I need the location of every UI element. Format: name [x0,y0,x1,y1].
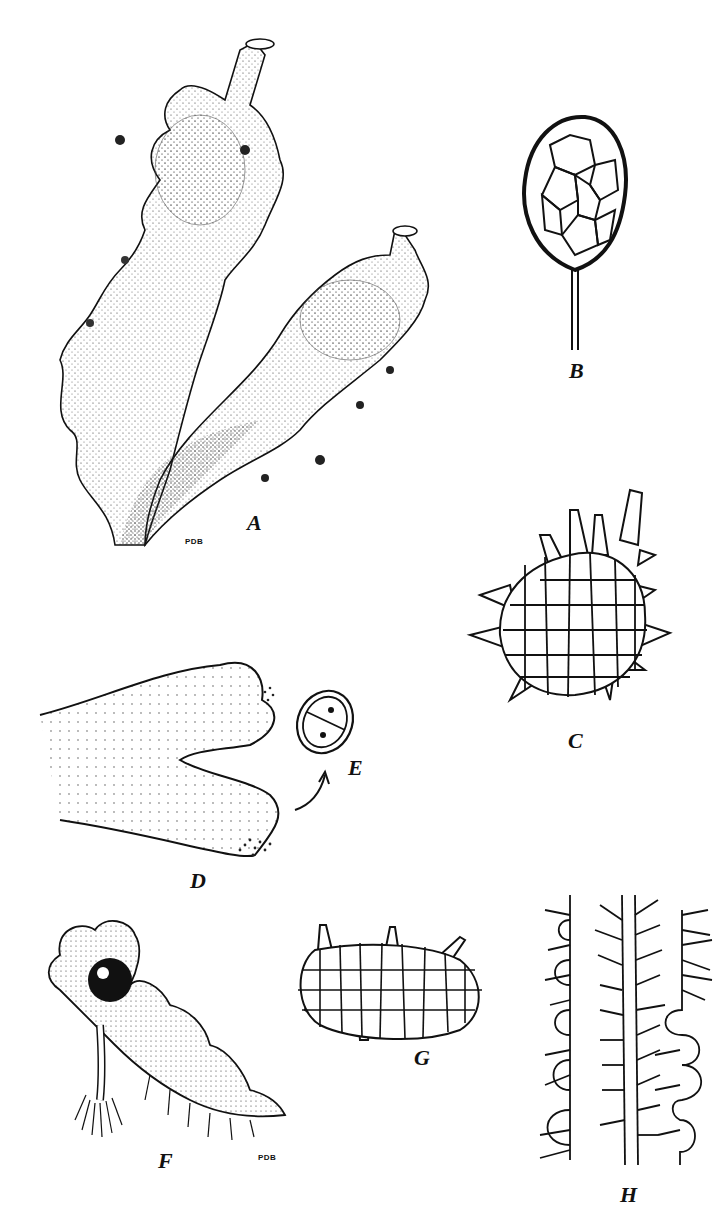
panel-b-capsule [520,105,630,355]
panel-b-label: B [569,358,584,384]
panel-g-label: G [414,1045,430,1071]
thallus-drawing [50,30,450,550]
panel-a-signature: PDB [185,537,203,546]
panel-c-spiny-body [470,485,680,720]
oval-network-drawing [290,915,490,1050]
panel-f-label: F [158,1148,173,1174]
panel-g-oval-cell-network [290,915,490,1050]
panel-f-signature: PDB [258,1153,276,1162]
panel-a-thallus [50,30,450,550]
panel-h-label: H [620,1182,637,1208]
panel-d-label: D [190,868,206,894]
capsule-drawing [520,105,630,355]
panel-e-spore [295,690,375,820]
panel-a-label: A [247,510,262,536]
spiny-body-drawing [470,485,680,720]
panel-f-thallus-globose [40,915,300,1155]
panel-d-thallus-tip [40,630,300,870]
filaments-drawing [540,890,720,1170]
globose-thallus-drawing [40,915,300,1155]
panel-c-label: C [568,728,583,754]
panel-h-filaments [540,890,720,1170]
spore-drawing [295,690,375,820]
panel-e-label: E [348,755,363,781]
thallus-tip-drawing [40,630,300,870]
